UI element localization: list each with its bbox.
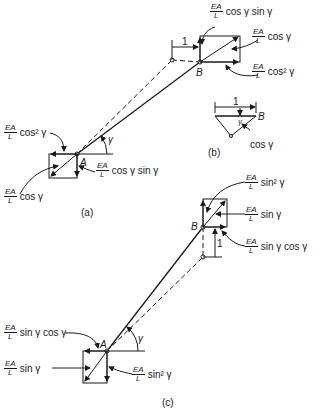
unit-label-b: 1 <box>233 96 239 107</box>
node-b-a: B <box>196 67 203 78</box>
angle-gamma-b: γ <box>238 117 242 126</box>
caption-b: (b) <box>208 147 220 158</box>
label-c-b-axial: EALsin γ <box>245 206 281 223</box>
label-c-a-axial: EALsin γ <box>4 360 40 377</box>
angle-gamma-c: γ <box>138 333 143 344</box>
label-a-a-vertical: EALcos γ sin γ <box>96 162 158 179</box>
label-c-b-horizontal: EALsin γ cos γ <box>245 238 307 255</box>
label-c-a-horizontal: EALsin γ cos γ <box>4 324 66 341</box>
label-a-b-shear: EALcos γ sin γ <box>210 3 272 20</box>
label-a-a-axial: EALcos γ <box>4 188 43 205</box>
label-c-a-vertical: EALsin² γ <box>132 366 172 383</box>
node-b-b: B <box>258 111 265 122</box>
label-a-a-horizontal: EALcos² γ <box>4 124 46 141</box>
label-c-b-vertical: EALsin² γ <box>245 174 285 191</box>
label-a-b-horizontal: EALcos² γ <box>252 63 294 80</box>
node-a-c: A <box>100 339 107 350</box>
unit-label-c: 1 <box>217 238 223 249</box>
caption-a: (a) <box>81 207 93 218</box>
angle-gamma-a: γ <box>108 134 113 145</box>
unit-label-a: 1 <box>182 36 188 47</box>
panel-b-drawing <box>215 102 256 138</box>
label-a-b-axial: EALcos γ <box>252 28 291 45</box>
caption-c: (c) <box>162 397 174 408</box>
node-b-c: B <box>191 221 198 232</box>
node-a-a: A <box>80 157 87 168</box>
label-b-cos: cos γ <box>250 140 273 150</box>
